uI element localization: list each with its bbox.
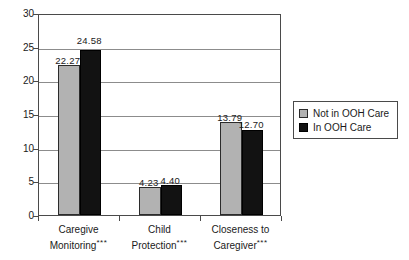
y-axis-tick-label: 25: [0, 42, 34, 53]
x-axis-tick-mark: [119, 216, 120, 221]
bar: [220, 122, 242, 215]
significance-marker: ***: [257, 238, 268, 247]
y-axis-tick-label: 20: [0, 75, 34, 86]
y-axis-tick-label: 15: [0, 109, 34, 120]
bar: [161, 185, 183, 215]
x-axis-tick-mark: [281, 216, 282, 221]
bar: [58, 65, 80, 215]
bar-chart: 051015202530 22.2724.584.234.4013.7912.7…: [0, 0, 409, 260]
legend-swatch-black-icon: [299, 123, 308, 132]
legend-item-in-ooh-care: In OOH Care: [299, 120, 392, 134]
bar: [139, 187, 161, 215]
gridline: [39, 49, 280, 50]
legend-label: In OOH Care: [313, 122, 371, 133]
y-axis-tick-label: 30: [0, 8, 34, 19]
bar-value-label: 4.40: [154, 175, 188, 186]
bar-value-label: 22.27: [51, 55, 85, 66]
y-axis-tick-label: 5: [0, 176, 34, 187]
bar: [80, 50, 102, 216]
bar-value-label: 24.58: [73, 35, 107, 46]
x-axis-tick-mark: [200, 216, 201, 221]
bar: [242, 130, 264, 216]
legend-item-not-in-ooh-care: Not in OOH Care: [299, 106, 392, 120]
x-axis-tick-mark: [38, 216, 39, 221]
legend-swatch-gray-icon: [299, 109, 308, 118]
chart-legend: Not in OOH Care In OOH Care: [293, 101, 398, 139]
x-axis-category-label: Closeness toCaregiver***: [181, 224, 301, 252]
y-axis-tick-label: 10: [0, 143, 34, 154]
y-axis-tick-label: 0: [0, 210, 34, 221]
bar-value-label: 12.70: [235, 119, 269, 130]
legend-label: Not in OOH Care: [313, 108, 389, 119]
